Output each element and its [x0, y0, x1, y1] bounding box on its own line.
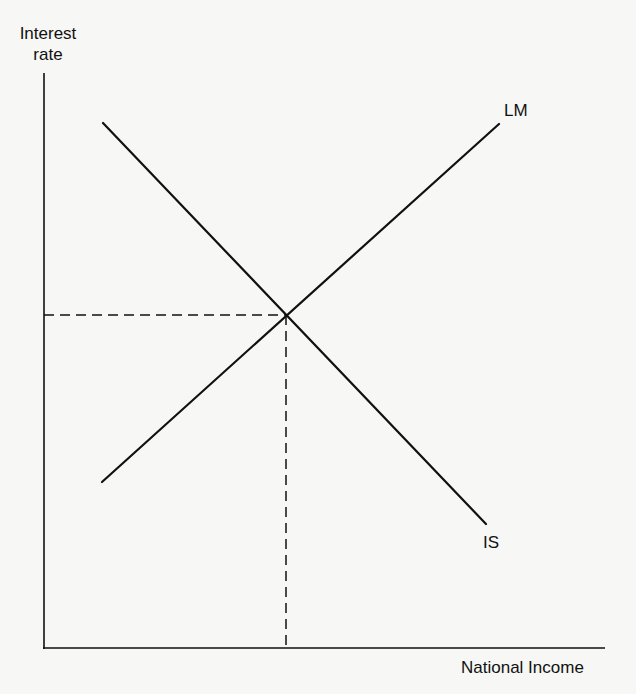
lm-curve — [102, 124, 499, 482]
y-axis-label: Interest rate — [8, 23, 88, 65]
x-axis-label: National Income — [461, 657, 584, 678]
is-curve — [103, 123, 486, 524]
islm-diagram — [0, 0, 636, 694]
y-axis-label-line2: rate — [8, 44, 88, 65]
is-curve-label: IS — [483, 532, 499, 553]
y-axis-label-line1: Interest — [8, 23, 88, 44]
lm-curve-label: LM — [504, 100, 528, 121]
